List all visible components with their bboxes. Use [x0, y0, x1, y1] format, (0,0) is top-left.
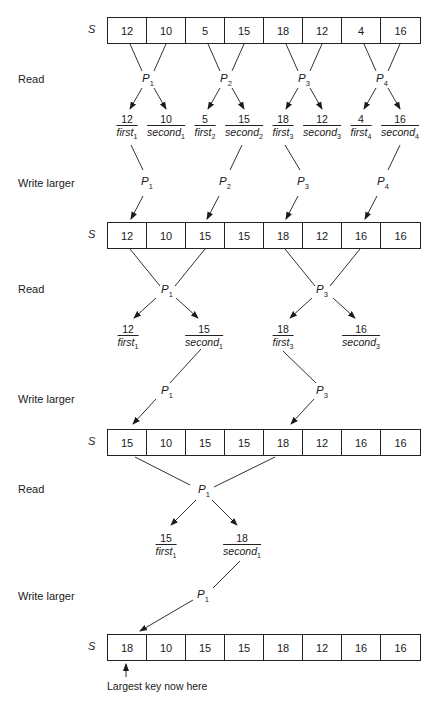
- parallel-max-diagram: Read Write larger Read Write larger Read…: [0, 0, 434, 708]
- read-value: 5first2: [195, 113, 216, 143]
- processor-node: P2: [219, 175, 231, 190]
- array-cell: 10: [147, 223, 186, 248]
- processor-node: P1: [161, 384, 173, 399]
- read-value: 12first1: [117, 113, 138, 143]
- processor-node: P1: [198, 483, 210, 498]
- array-cell: 10: [147, 430, 186, 455]
- array-cell: 15: [225, 635, 264, 660]
- read-value: 16second4: [381, 113, 419, 143]
- processor-node: P1: [142, 72, 154, 87]
- processor-node: P1: [161, 283, 173, 298]
- array-cell: 10: [147, 635, 186, 660]
- array-cell: 15: [225, 223, 264, 248]
- array-cell: 18: [264, 223, 303, 248]
- step-label: Write larger: [18, 590, 75, 602]
- array-label: S: [88, 23, 95, 35]
- array-cell: 15: [225, 18, 264, 43]
- array-cell: 12: [108, 223, 147, 248]
- read-value: 12first1: [118, 323, 139, 353]
- array-cell: 16: [381, 430, 420, 455]
- step-label: Read: [18, 483, 44, 495]
- processor-node: P3: [297, 175, 309, 190]
- processor-node: P3: [298, 72, 310, 87]
- array-cell: 16: [342, 635, 381, 660]
- processor-node: P1: [141, 175, 153, 190]
- processor-node: P2: [220, 72, 232, 87]
- processor-node: P4: [376, 72, 388, 87]
- array-s-final: 18 10 15 15 18 12 16 16: [107, 634, 421, 661]
- array-label: S: [88, 640, 95, 652]
- array-cell: 12: [303, 635, 342, 660]
- array-label: S: [88, 435, 95, 447]
- step-label: Write larger: [18, 393, 75, 405]
- step-label: Write larger: [18, 177, 75, 189]
- read-value: 4first4: [351, 113, 372, 143]
- step-label: Read: [18, 73, 44, 85]
- step-label: Read: [18, 283, 44, 295]
- read-value: 15second1: [185, 323, 223, 353]
- array-cell: 16: [381, 635, 420, 660]
- array-s-after-round-2: 15 10 15 15 18 12 16 16: [107, 429, 421, 456]
- array-cell: 12: [108, 18, 147, 43]
- array-cell: 18: [264, 430, 303, 455]
- read-value: 10second1: [147, 113, 185, 143]
- array-cell: 15: [186, 223, 225, 248]
- read-value: 15first1: [156, 532, 177, 562]
- array-cell: 16: [381, 223, 420, 248]
- read-value: 18second1: [223, 532, 261, 562]
- array-cell: 16: [381, 18, 420, 43]
- array-s-initial: 12 10 5 15 18 12 4 16: [107, 17, 421, 44]
- array-cell: 18: [108, 635, 147, 660]
- array-cell: 10: [147, 18, 186, 43]
- array-cell: 15: [186, 635, 225, 660]
- array-cell: 16: [342, 430, 381, 455]
- processor-node: P1: [197, 588, 209, 603]
- read-value: 18first3: [273, 323, 294, 353]
- processor-node: P3: [316, 384, 328, 399]
- array-cell: 15: [108, 430, 147, 455]
- array-label: S: [88, 228, 95, 240]
- array-cell: 18: [264, 635, 303, 660]
- read-value: 18first3: [273, 113, 294, 143]
- array-cell: 15: [225, 430, 264, 455]
- array-cell: 12: [303, 18, 342, 43]
- processor-node: P3: [316, 283, 328, 298]
- read-value: 12second3: [303, 113, 341, 143]
- read-value: 16second3: [342, 323, 380, 353]
- processor-node: P4: [377, 175, 389, 190]
- array-cell: 5: [186, 18, 225, 43]
- array-cell: 4: [342, 18, 381, 43]
- array-cell: 16: [342, 223, 381, 248]
- array-cell: 18: [264, 18, 303, 43]
- array-cell: 15: [186, 430, 225, 455]
- array-s-after-round-1: 12 10 15 15 18 12 16 16: [107, 222, 421, 249]
- array-cell: 12: [303, 223, 342, 248]
- array-cell: 12: [303, 430, 342, 455]
- read-value: 15second2: [225, 113, 263, 143]
- annotation-largest-key: Largest key now here: [107, 680, 207, 692]
